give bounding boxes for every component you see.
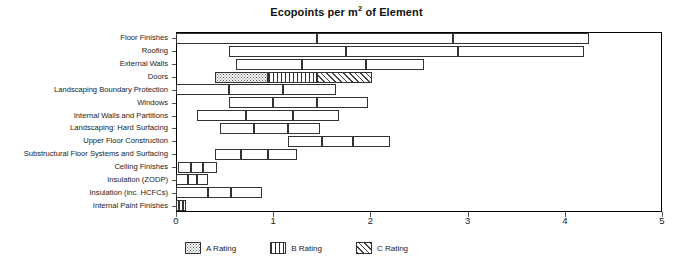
x-axis-tick-label: 2 bbox=[368, 215, 373, 226]
y-axis-label: Floor Finishes bbox=[120, 33, 168, 42]
x-axis-tick-label: 0 bbox=[173, 215, 178, 226]
bar-row bbox=[176, 33, 662, 44]
bar-segment-c-rating bbox=[317, 72, 372, 83]
bar-segment-c-rating bbox=[293, 110, 340, 121]
bar-segment-b-rating bbox=[241, 149, 268, 160]
bar-row bbox=[176, 123, 662, 134]
bar-row bbox=[176, 110, 662, 121]
bar-segment-a-rating bbox=[178, 162, 191, 173]
legend-item-a-rating: A Rating bbox=[185, 242, 236, 254]
x-axis-tick-labels: 012345 bbox=[0, 215, 693, 231]
bar-row bbox=[176, 174, 662, 185]
bar-segment-b-rating bbox=[246, 110, 293, 121]
y-axis-label: Internal Paint Finishes bbox=[93, 201, 168, 210]
bar-segment-b-rating bbox=[322, 136, 353, 147]
bar-segment-a-rating bbox=[176, 33, 317, 44]
legend-label: B Rating bbox=[291, 244, 322, 253]
bar-row bbox=[176, 97, 662, 108]
chart-title: Ecopoints per m2 of Element bbox=[0, 4, 693, 18]
bar-segment-a-rating bbox=[197, 110, 246, 121]
legend-swatch-c bbox=[356, 242, 372, 254]
bar-row bbox=[176, 200, 662, 211]
bar-row bbox=[176, 84, 662, 95]
ecopoints-bar-chart: Ecopoints per m2 of Element Floor Finish… bbox=[0, 0, 693, 270]
bar-segment-c-rating bbox=[317, 97, 369, 108]
chart-legend: A RatingB RatingC Rating bbox=[185, 240, 442, 256]
chart-title-suffix: of Element bbox=[362, 6, 422, 18]
x-axis-tick-label: 1 bbox=[271, 215, 276, 226]
x-axis-tick-label: 4 bbox=[562, 215, 567, 226]
y-axis-label: Internal Walls and Partitions bbox=[74, 111, 168, 120]
bar-segment-a-rating bbox=[215, 72, 268, 83]
bar-row bbox=[176, 46, 662, 57]
bars-layer bbox=[176, 32, 662, 212]
bar-segment-b-rating bbox=[317, 33, 453, 44]
y-axis-category-labels: Floor FinishesRoofingExternal WallsDoors… bbox=[0, 32, 172, 212]
bar-segment-c-rating bbox=[366, 59, 424, 70]
bar-segment-b-rating bbox=[346, 46, 458, 57]
bar-segment-c-rating bbox=[353, 136, 390, 147]
y-axis-label: Substructural Floor Systems and Surfacin… bbox=[24, 149, 168, 158]
bar-segment-c-rating bbox=[183, 200, 186, 211]
bar-segment-a-rating bbox=[236, 59, 302, 70]
y-axis-label: Landscaping: Hard Surfacing bbox=[70, 123, 168, 132]
bar-segment-b-rating bbox=[191, 162, 204, 173]
bar-segment-a-rating bbox=[176, 174, 188, 185]
bar-segment-c-rating bbox=[268, 149, 297, 160]
legend-label: C Rating bbox=[377, 244, 408, 253]
bar-segment-b-rating bbox=[254, 123, 288, 134]
bar-row bbox=[176, 136, 662, 147]
legend-item-c-rating: C Rating bbox=[356, 242, 408, 254]
bar-row bbox=[176, 162, 662, 173]
bar-row bbox=[176, 187, 662, 198]
bar-row bbox=[176, 149, 662, 160]
y-axis-label: Insulation (ZODP) bbox=[107, 175, 168, 184]
bar-segment-c-rating bbox=[453, 33, 589, 44]
bar-segment-a-rating bbox=[220, 123, 254, 134]
bar-segment-a-rating bbox=[215, 149, 241, 160]
bar-segment-c-rating bbox=[197, 174, 208, 185]
y-axis-label: External Walls bbox=[120, 59, 168, 68]
x-axis-tick-label: 5 bbox=[659, 215, 664, 226]
bar-segment-c-rating bbox=[458, 46, 584, 57]
bar-segment-b-rating bbox=[188, 174, 198, 185]
bar-segment-c-rating bbox=[283, 84, 336, 95]
y-axis-label: Roofing bbox=[142, 46, 168, 55]
chart-title-prefix: Ecopoints per m bbox=[270, 6, 358, 18]
legend-swatch-a bbox=[185, 242, 201, 254]
bar-segment-c-rating bbox=[288, 123, 320, 134]
legend-item-b-rating: B Rating bbox=[270, 242, 322, 254]
bar-segment-b-rating bbox=[302, 59, 365, 70]
y-axis-label: Upper Floor Construction bbox=[83, 136, 168, 145]
bar-segment-b-rating bbox=[229, 84, 282, 95]
bar-segment-b-rating bbox=[208, 187, 231, 198]
y-axis-label: Windows bbox=[137, 98, 168, 107]
y-axis-label: Landscaping Boundary Protection bbox=[54, 85, 168, 94]
legend-label: A Rating bbox=[206, 244, 236, 253]
y-axis-label: Ceiling Finishes bbox=[114, 162, 168, 171]
bar-row bbox=[176, 59, 662, 70]
bar-segment-a-rating bbox=[288, 136, 322, 147]
bar-segment-b-rating bbox=[268, 72, 317, 83]
bar-segment-a-rating bbox=[176, 84, 229, 95]
y-axis-label: Insulation (inc. HCFCs) bbox=[90, 188, 169, 197]
legend-swatch-b bbox=[270, 242, 286, 254]
bar-segment-c-rating bbox=[203, 162, 217, 173]
x-axis-tick-label: 3 bbox=[465, 215, 470, 226]
bar-segment-a-rating bbox=[229, 46, 346, 57]
bar-row bbox=[176, 72, 662, 83]
bar-segment-a-rating bbox=[176, 187, 208, 198]
bar-segment-a-rating bbox=[229, 97, 273, 108]
bar-segment-c-rating bbox=[231, 187, 261, 198]
bar-segment-b-rating bbox=[273, 97, 317, 108]
y-axis-label: Doors bbox=[148, 72, 168, 81]
